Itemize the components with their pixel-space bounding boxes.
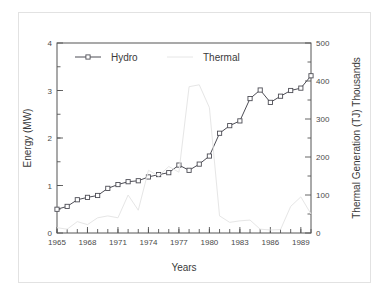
series-line-thermal [57, 85, 311, 230]
x-tick-label: 1971 [109, 238, 127, 247]
series-marker-hydro [167, 171, 171, 175]
y2-tick-label: 500 [316, 39, 330, 48]
y-axis-right-ticks: 0100200300400500 [305, 39, 330, 238]
x-tick-label: 1980 [201, 238, 219, 247]
series-marker-hydro [126, 180, 130, 184]
x-tick-label: 1989 [292, 238, 310, 247]
y2-tick-label: 200 [316, 153, 330, 162]
series-marker-hydro [116, 182, 120, 186]
legend-label-thermal: Thermal [203, 52, 240, 63]
chart-legend: HydroThermal [75, 52, 240, 63]
series-marker-hydro [299, 86, 303, 90]
series-marker-hydro [187, 168, 191, 172]
series-marker-hydro [197, 162, 201, 166]
series-line-hydro [57, 76, 311, 209]
series-marker-hydro [106, 186, 110, 190]
series-marker-hydro [289, 88, 293, 92]
series-marker-hydro [136, 179, 140, 183]
series-marker-hydro [278, 94, 282, 98]
y2-tick-label: 0 [316, 229, 321, 238]
series-marker-hydro [268, 100, 272, 104]
x-tick-label: 1968 [79, 238, 97, 247]
y-tick-label: 3 [48, 87, 53, 96]
legend-label-hydro: Hydro [111, 52, 138, 63]
plot-frame [57, 43, 311, 233]
x-tick-label: 1965 [48, 238, 66, 247]
series-marker-hydro [96, 193, 100, 197]
y2-tick-label: 400 [316, 77, 330, 86]
series-marker-hydro [309, 74, 313, 78]
x-axis-title: Years [171, 262, 196, 273]
y2-tick-label: 300 [316, 115, 330, 124]
series-marker-hydro [228, 124, 232, 128]
legend-marker-hydro [86, 55, 90, 59]
y-tick-label: 1 [48, 182, 53, 191]
series-marker-hydro [207, 154, 211, 158]
y-tick-label: 4 [48, 39, 53, 48]
plot-area-border [57, 43, 311, 233]
series-marker-hydro [55, 207, 59, 211]
y-axis-left-title: Energy (MW) [22, 109, 33, 168]
y-axis-right-title: Thermal Generation (TJ) Thousands [351, 57, 362, 219]
x-tick-label: 1977 [170, 238, 188, 247]
x-tick-label: 1986 [261, 238, 279, 247]
chart-canvas: 196519681971197419771980198319861989 012… [19, 13, 372, 284]
series-marker-hydro [85, 195, 89, 199]
series-marker-hydro [258, 88, 262, 92]
y-tick-label: 2 [48, 134, 53, 143]
y-tick-label: 0 [48, 229, 53, 238]
series-marker-hydro [238, 119, 242, 123]
series-marker-hydro [65, 204, 69, 208]
x-tick-label: 1974 [140, 238, 158, 247]
series-marker-hydro [248, 96, 252, 100]
x-tick-label: 1983 [231, 238, 249, 247]
data-series-layer [55, 74, 313, 230]
series-marker-hydro [75, 198, 79, 202]
series-marker-hydro [217, 131, 221, 135]
y2-tick-label: 100 [316, 191, 330, 200]
chart-figure: 196519681971197419771980198319861989 012… [18, 12, 371, 283]
